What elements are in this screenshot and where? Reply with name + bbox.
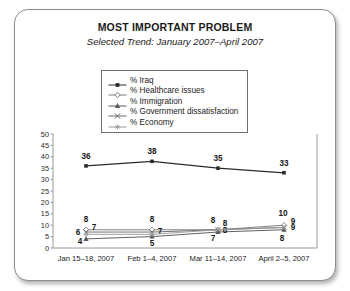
data-point-label: 8 [211, 216, 216, 225]
legend-item-label: % Economy [130, 118, 174, 128]
y-tick-label: 45 [41, 141, 49, 150]
x-tick-label: Feb 1–4, 2007 [128, 254, 177, 263]
y-tick-label: 30 [41, 175, 49, 184]
data-point-label: 8 [84, 215, 89, 224]
data-point-label: 4 [78, 237, 83, 246]
y-tick-label: 5 [45, 232, 49, 241]
line-chart-svg: 05101520253035404550Jan 15–18, 2007Feb 1… [29, 128, 325, 276]
data-point-label: 10 [278, 209, 288, 218]
legend-marker-filled-triangle-icon [108, 97, 127, 107]
data-point-marker [150, 160, 154, 164]
legend-marker-asterisk-icon [108, 118, 127, 128]
chart-legend: % Iraq% Healthcare issues% Immigration% … [101, 70, 248, 133]
data-point-label: 35 [213, 154, 223, 163]
series-polyline [86, 225, 284, 230]
data-point-label: 7 [92, 223, 97, 232]
legend-marker-filled-square-icon [108, 76, 127, 86]
y-tick-label: 25 [41, 187, 49, 196]
legend-item: % Healthcare issues [108, 86, 238, 96]
y-tick-label: 50 [41, 130, 49, 139]
legend-item-label: % Government dissatisfaction [130, 107, 238, 117]
x-tick-label: Mar 11–14, 2007 [190, 254, 247, 263]
legend-marker-x-cross-icon [108, 107, 127, 117]
legend-marker-open-diamond-icon [108, 86, 127, 96]
data-point-label: 8 [223, 219, 228, 228]
y-tick-label: 35 [41, 164, 49, 173]
legend-item-label: % Healthcare issues [130, 86, 205, 96]
data-point-label: 6 [76, 228, 81, 237]
data-point-marker [282, 171, 286, 175]
chart-title: MOST IMPORTANT PROBLEM [15, 21, 335, 34]
series-line: 88810 [83, 209, 288, 232]
legend-item: % Government dissatisfaction [108, 107, 238, 117]
x-tick-label: April 2–5, 2007 [258, 254, 309, 263]
y-tick-label: 20 [41, 198, 49, 207]
legend-item-label: % Immigration [130, 97, 182, 107]
legend-item: % Economy [108, 118, 238, 128]
chart-subtitle: Selected Trend: January 2007–April 2007 [15, 35, 335, 48]
data-point-label: 36 [81, 152, 91, 161]
data-point-label: 38 [147, 147, 157, 156]
y-tick-label: 10 [41, 221, 49, 230]
series-line: 36383533 [81, 147, 289, 174]
data-point-label: 7 [158, 227, 163, 236]
data-point-label: 9 [291, 217, 296, 226]
legend-item: % Iraq [108, 76, 238, 86]
chart-card: MOST IMPORTANT PROBLEM Selected Trend: J… [14, 9, 336, 281]
data-point-label: 8 [150, 215, 155, 224]
data-point-label: 5 [150, 239, 155, 248]
plot-area: 05101520253035404550Jan 15–18, 2007Feb 1… [29, 128, 325, 276]
x-tick-label: Jan 15–18, 2007 [58, 254, 115, 263]
data-point-marker [84, 164, 88, 168]
y-tick-label: 40 [41, 152, 49, 161]
series-polyline [86, 161, 284, 172]
data-point-label: 8 [280, 234, 285, 243]
y-tick-label: 15 [41, 209, 49, 218]
legend-item: % Immigration [108, 97, 238, 107]
data-point-label: 33 [279, 159, 289, 168]
data-point-marker [216, 166, 220, 170]
title-block: MOST IMPORTANT PROBLEM Selected Trend: J… [15, 21, 335, 48]
y-tick-label: 0 [45, 244, 49, 253]
legend-item-label: % Iraq [130, 76, 154, 86]
data-point-label: 7 [211, 234, 216, 243]
